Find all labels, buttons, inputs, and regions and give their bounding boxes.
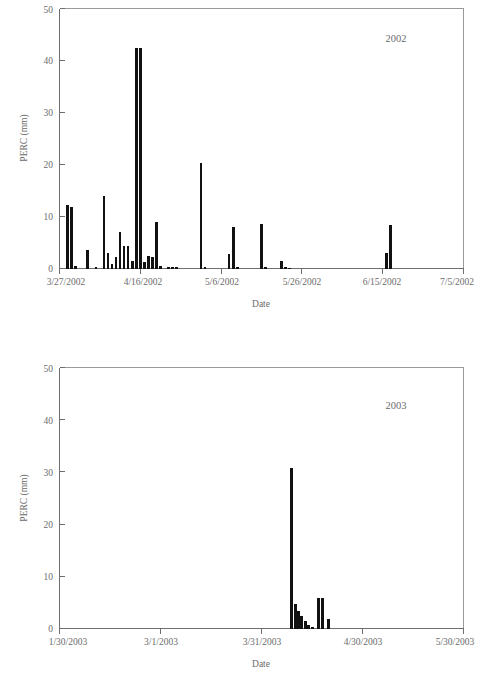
bar: [95, 267, 98, 269]
bar: [204, 267, 207, 268]
bar: [175, 267, 178, 268]
bar: [389, 225, 392, 269]
bar: [127, 246, 130, 268]
x-tick-label: 5/30/2003: [436, 637, 475, 647]
bar: [131, 261, 134, 269]
y-tick-label: 30: [44, 468, 54, 478]
y-tick-label: 50: [44, 5, 54, 15]
bar: [385, 253, 388, 268]
bar-series-2002: [66, 48, 392, 269]
x-axis-title: Date: [252, 659, 270, 669]
y-axis-ticks-2002: [60, 9, 65, 269]
x-tick-label: 5/6/2002: [205, 277, 239, 287]
bar: [66, 205, 69, 268]
x-tick-label: 4/30/2003: [344, 637, 383, 647]
bar: [284, 267, 287, 268]
y-tick-label: 20: [44, 160, 54, 170]
y-tick-label: 30: [44, 108, 54, 118]
bar: [147, 256, 150, 269]
bar: [317, 598, 320, 629]
y-axis-title: PERC (mm): [19, 474, 30, 521]
bar: [304, 621, 307, 629]
bar: [290, 468, 293, 628]
bar: [115, 257, 118, 269]
x-tick-label: 3/31/2003: [243, 637, 282, 647]
bar: [103, 196, 106, 268]
bar: [311, 627, 314, 629]
chart-panel-2002: 0 10 20 30 40 50 PERC (mm) 3/27/2002: [0, 0, 482, 340]
bar: [135, 48, 138, 269]
y-tick-label: 0: [48, 264, 53, 274]
y-tick-label: 10: [44, 572, 54, 582]
y-axis-ticks-2003: [60, 368, 65, 629]
bar: [159, 266, 162, 269]
bar: [171, 267, 174, 268]
bar: [86, 250, 89, 269]
y-axis-title: PERC (mm): [19, 114, 30, 161]
bar: [288, 268, 291, 269]
bar: [139, 48, 142, 268]
bar: [297, 611, 300, 629]
y-tick-label: 50: [44, 364, 54, 374]
panel-annotation-year: 2003: [386, 400, 407, 411]
x-tick-label: 3/1/2003: [144, 637, 178, 647]
x-tick-label: 7/5/2002: [440, 277, 474, 287]
y-tick-label: 10: [44, 212, 54, 222]
bar: [119, 232, 122, 269]
y-axis-tick-labels-2002: 0 10 20 30 40 50: [44, 5, 54, 274]
x-axis-tick-labels-2002: 3/27/2002 4/16/2002 5/6/2002 5/26/2002 6…: [47, 277, 474, 287]
bar: [143, 262, 146, 268]
x-tick-label: 1/30/2003: [49, 637, 88, 647]
bar: [74, 266, 77, 268]
bar: [151, 257, 154, 269]
y-axis-tick-labels-2003: 0 10 20 30 40 50: [44, 364, 54, 634]
bar: [167, 267, 170, 269]
x-axis-tick-labels-2003: 1/30/2003 3/1/2003 3/31/2003 4/30/2003 5…: [49, 637, 475, 647]
bar: [260, 224, 263, 269]
panel-annotation-year: 2002: [386, 33, 407, 44]
chart-svg-2003: 0 10 20 30 40 50 PERC (mm) 1/30/2003 3/1…: [0, 340, 482, 685]
x-tick-label: 4/16/2002: [124, 277, 163, 287]
y-tick-label: 40: [44, 56, 54, 66]
y-tick-label: 20: [44, 520, 54, 530]
bar: [107, 253, 110, 268]
bar: [294, 604, 297, 629]
bar: [307, 625, 310, 628]
bar: [232, 227, 235, 269]
bar: [264, 267, 267, 269]
chart-svg-2002: 0 10 20 30 40 50 PERC (mm) 3/27/2002: [0, 0, 482, 340]
x-axis-title: Date: [252, 299, 270, 309]
percolation-figure: 0 10 20 30 40 50 PERC (mm) 3/27/2002: [0, 0, 482, 685]
bar: [321, 598, 324, 628]
bar: [228, 254, 231, 269]
bar: [70, 207, 73, 268]
bar: [111, 264, 114, 269]
x-axis-ticks-2002: [60, 269, 464, 274]
bar: [327, 619, 330, 628]
x-tick-label: 6/15/2002: [363, 277, 402, 287]
bar: [300, 616, 303, 629]
bar: [123, 246, 126, 269]
y-tick-label: 40: [44, 416, 54, 426]
x-axis-ticks-2003: [60, 629, 464, 634]
y-tick-label: 0: [48, 624, 53, 634]
chart-panel-2003: 0 10 20 30 40 50 PERC (mm) 1/30/2003 3/1…: [0, 340, 482, 685]
bar: [236, 267, 239, 269]
bar: [280, 261, 283, 268]
x-tick-label: 3/27/2002: [47, 277, 86, 287]
bar: [200, 163, 203, 268]
x-tick-label: 5/26/2002: [283, 277, 322, 287]
bar: [155, 222, 158, 268]
bar-series-2003: [290, 468, 330, 628]
